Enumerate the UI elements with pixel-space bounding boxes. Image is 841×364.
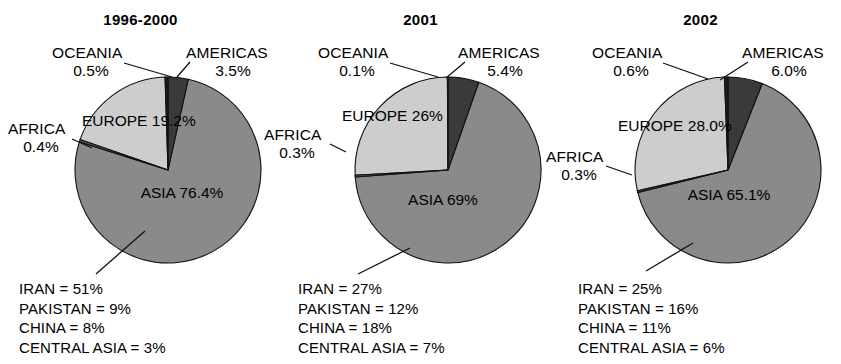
legend-item: CENTRAL ASIA = 3%	[19, 338, 166, 358]
leader-oceania-icon	[390, 63, 438, 77]
inslice-europe-value: 28.0%	[688, 117, 732, 134]
inslice-asia-label: ASIA	[408, 191, 442, 208]
callout-americas: AMERICAS 3.5%	[186, 44, 280, 79]
pie-panel-2001: 2001 OCEANIA 0.1% AMERICAS 5.4%	[280, 0, 561, 364]
legend-item: CHINA = 8%	[19, 318, 166, 338]
callout-africa: AFRICA 0.4%	[8, 120, 74, 155]
callout-africa: AFRICA 0.3%	[546, 148, 612, 183]
pie-slices-3	[635, 77, 821, 263]
callout-africa-label: AFRICA	[264, 126, 321, 143]
inslice-europe-label: EUROPE	[342, 107, 407, 124]
inslice-europe-value: 26%	[412, 107, 443, 124]
inslice-asia-label: ASIA	[688, 186, 722, 203]
pie-slices-2	[355, 77, 541, 263]
leader-asia-icon	[646, 243, 693, 271]
leader-oceania-icon	[124, 63, 172, 77]
callout-americas-value: 6.0%	[742, 62, 836, 80]
callout-oceania: OCEANIA 0.6%	[592, 44, 670, 79]
callout-oceania-label: OCEANIA	[52, 44, 122, 61]
legend-sub-breakdown: IRAN = 27% PAKISTAN = 12% CHINA = 18% CE…	[298, 279, 445, 357]
callout-africa: AFRICA 0.3%	[264, 126, 330, 161]
callout-oceania-value: 0.6%	[592, 62, 670, 80]
legend-item: CHINA = 18%	[298, 318, 445, 338]
inslice-europe: EUROPE 26%	[342, 107, 442, 125]
legend-item: IRAN = 27%	[298, 279, 445, 299]
inslice-asia: ASIA 69%	[398, 191, 488, 209]
callout-africa-label: AFRICA	[8, 120, 65, 137]
pie-chart-figure: 1996-2000 OCEANIA 0.5% AMERICAS 3.5%	[0, 0, 841, 364]
inslice-asia-label: ASIA	[141, 184, 175, 201]
legend-item: PAKISTAN = 12%	[298, 299, 445, 319]
callout-oceania-value: 0.5%	[52, 62, 130, 80]
callout-americas-label: AMERICAS	[458, 44, 540, 61]
callout-americas: AMERICAS 5.4%	[458, 44, 552, 79]
inslice-europe-label: EUROPE	[618, 117, 683, 134]
legend-item: PAKISTAN = 9%	[19, 299, 166, 319]
legend-item: IRAN = 51%	[19, 279, 166, 299]
inslice-europe: EUROPE 28.0%	[618, 117, 718, 135]
leader-africa-icon	[330, 144, 346, 152]
inslice-asia: ASIA 65.1%	[684, 186, 774, 204]
inslice-asia-value: 76.4%	[179, 184, 223, 201]
callout-oceania-label: OCEANIA	[318, 44, 388, 61]
legend-sub-breakdown: IRAN = 51% PAKISTAN = 9% CHINA = 8% CENT…	[19, 279, 166, 357]
callout-americas: AMERICAS 6.0%	[742, 44, 836, 79]
callout-africa-value: 0.4%	[8, 138, 74, 156]
pie-slices-1	[75, 77, 261, 263]
inslice-asia-value: 65.1%	[726, 186, 770, 203]
leader-asia-icon	[358, 248, 410, 274]
legend-item: CHINA = 11%	[578, 318, 725, 338]
callout-africa-value: 0.3%	[546, 166, 612, 184]
legend-item: CENTRAL ASIA = 7%	[298, 338, 445, 358]
callout-oceania: OCEANIA 0.5%	[52, 44, 130, 79]
inslice-europe: EUROPE 19.2%	[82, 112, 182, 130]
callout-americas-label: AMERICAS	[742, 44, 824, 61]
callout-africa-value: 0.3%	[264, 144, 330, 162]
callout-americas-value: 5.4%	[458, 62, 552, 80]
callout-africa-label: AFRICA	[546, 148, 603, 165]
inslice-europe-value: 19.2%	[152, 112, 196, 129]
slice-oceania	[447, 77, 448, 170]
callout-americas-value: 3.5%	[186, 62, 280, 80]
pie-panel-1996-2000: 1996-2000 OCEANIA 0.5% AMERICAS 3.5%	[0, 0, 281, 364]
legend-sub-breakdown: IRAN = 25% PAKISTAN = 16% CHINA = 11% CE…	[578, 279, 725, 357]
callout-americas-label: AMERICAS	[186, 44, 268, 61]
legend-item: CENTRAL ASIA = 6%	[578, 338, 725, 358]
pie-panel-2002: 2002 OCEANIA 0.6% AMERICAS 6.0%	[560, 0, 841, 364]
inslice-europe-label: EUROPE	[82, 112, 147, 129]
slice-europe	[355, 77, 448, 175]
legend-item: PAKISTAN = 16%	[578, 299, 725, 319]
callout-oceania: OCEANIA 0.1%	[318, 44, 396, 79]
inslice-asia-value: 69%	[447, 191, 478, 208]
inslice-asia: ASIA 76.4%	[137, 184, 227, 202]
legend-item: IRAN = 25%	[578, 279, 725, 299]
callout-oceania-value: 0.1%	[318, 62, 396, 80]
callout-oceania-label: OCEANIA	[592, 44, 662, 61]
